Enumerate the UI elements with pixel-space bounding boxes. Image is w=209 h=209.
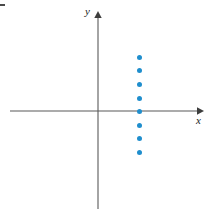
data-point (137, 123, 142, 128)
data-point (137, 96, 142, 101)
axes-canvas (0, 0, 209, 209)
x-axis-label: x (196, 115, 201, 126)
data-point (137, 150, 142, 155)
data-point (137, 136, 142, 141)
crop-registration-mark (0, 4, 5, 6)
data-point (137, 109, 142, 114)
data-point (137, 55, 142, 60)
y-axis-label: y (85, 6, 90, 17)
data-point (137, 68, 142, 73)
coordinate-plane-figure: y x (0, 0, 209, 209)
data-point (137, 82, 142, 87)
y-axis-arrowhead-icon (94, 11, 101, 18)
